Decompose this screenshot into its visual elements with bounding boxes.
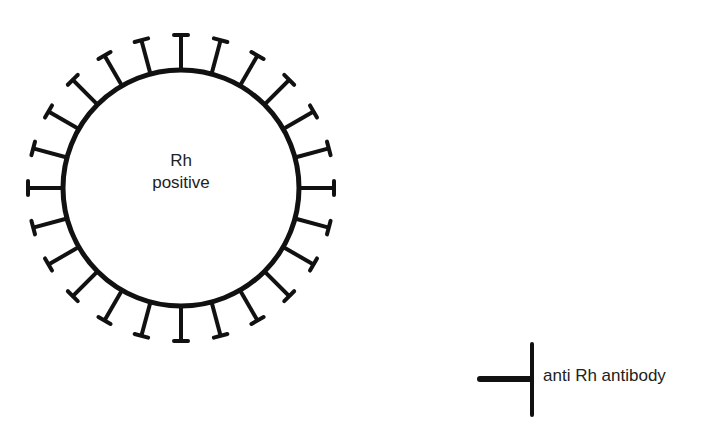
antibody-spike bbox=[240, 55, 258, 85]
antibody-spike bbox=[141, 302, 150, 336]
cell-label-line1: Rh bbox=[131, 150, 231, 172]
antibody-spike bbox=[105, 290, 123, 320]
antibody-spike-cap bbox=[214, 334, 228, 338]
antibody-spike-cap bbox=[135, 334, 149, 338]
antibody-spike bbox=[33, 219, 67, 228]
antibody-spike-cap bbox=[135, 38, 149, 42]
antibody-spike bbox=[33, 148, 67, 157]
legend-antibody-icon bbox=[480, 344, 532, 415]
cell-label: Rh positive bbox=[131, 150, 231, 194]
antibody-spike bbox=[283, 112, 313, 130]
antibody-spike bbox=[240, 290, 258, 320]
antibody-spike-cap bbox=[214, 38, 228, 42]
antibody-spike-cap bbox=[327, 221, 331, 235]
antibody-spike bbox=[48, 112, 78, 130]
antibody-spike bbox=[105, 55, 123, 85]
antibody-spike-cap bbox=[31, 221, 35, 235]
antibody-spike bbox=[295, 219, 329, 228]
antibody-spike bbox=[141, 40, 150, 74]
antibody-spike bbox=[283, 247, 313, 265]
antibody-spike bbox=[48, 247, 78, 265]
legend-label: anti Rh antibody bbox=[543, 366, 666, 386]
antibody-spike bbox=[212, 302, 221, 336]
antibody-spike bbox=[264, 271, 289, 296]
antibody-spike bbox=[73, 271, 98, 296]
antibody-spike-cap bbox=[327, 142, 331, 156]
antibody-spike bbox=[73, 80, 98, 105]
antibody-spike bbox=[295, 148, 329, 157]
cell-label-line2: positive bbox=[131, 172, 231, 194]
antibody-spike bbox=[212, 40, 221, 74]
antibody-spike-cap bbox=[31, 142, 35, 156]
antibody-spike bbox=[264, 80, 289, 105]
